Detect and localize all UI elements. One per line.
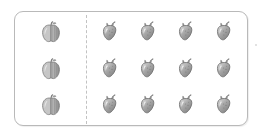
strawberry-icon: [212, 20, 236, 44]
apple-icon: [38, 92, 64, 118]
apple-icon: [38, 56, 64, 82]
panel-frame: [14, 11, 248, 126]
strawberry-icon: [212, 93, 236, 117]
strawberry-icon: [98, 57, 122, 81]
apple-row: [15, 16, 87, 49]
strawberry-row: [87, 16, 247, 49]
page-speck: [255, 44, 257, 46]
strawberry-icon: [212, 57, 236, 81]
strawberry-icon: [98, 93, 122, 117]
strawberry-cell[interactable]: [209, 54, 239, 84]
strawberry-icon: [136, 20, 160, 44]
apple-icon: [38, 19, 64, 45]
strawberry-cell[interactable]: [133, 17, 163, 47]
strawberry-cell[interactable]: [95, 17, 125, 47]
strawberry-icon: [174, 93, 198, 117]
strawberry-icon: [136, 57, 160, 81]
apple-cell[interactable]: [36, 54, 66, 84]
strawberry-cell[interactable]: [209, 90, 239, 120]
strawberry-cell[interactable]: [171, 54, 201, 84]
fruit-grouping-panel: [0, 0, 264, 138]
strawberry-cell[interactable]: [95, 90, 125, 120]
strawberry-icon: [136, 93, 160, 117]
strawberry-row: [87, 52, 247, 85]
apple-cell[interactable]: [36, 17, 66, 47]
strawberry-icon: [174, 20, 198, 44]
strawberry-icon: [174, 57, 198, 81]
strawberry-cell[interactable]: [171, 90, 201, 120]
strawberry-cell[interactable]: [133, 54, 163, 84]
strawberry-group: [87, 12, 247, 125]
strawberry-row: [87, 89, 247, 122]
apple-cell[interactable]: [36, 90, 66, 120]
apple-row: [15, 89, 87, 122]
strawberry-cell[interactable]: [171, 17, 201, 47]
apple-group: [15, 12, 87, 125]
apple-row: [15, 52, 87, 85]
strawberry-cell[interactable]: [209, 17, 239, 47]
strawberry-icon: [98, 20, 122, 44]
strawberry-cell[interactable]: [95, 54, 125, 84]
strawberry-cell[interactable]: [133, 90, 163, 120]
